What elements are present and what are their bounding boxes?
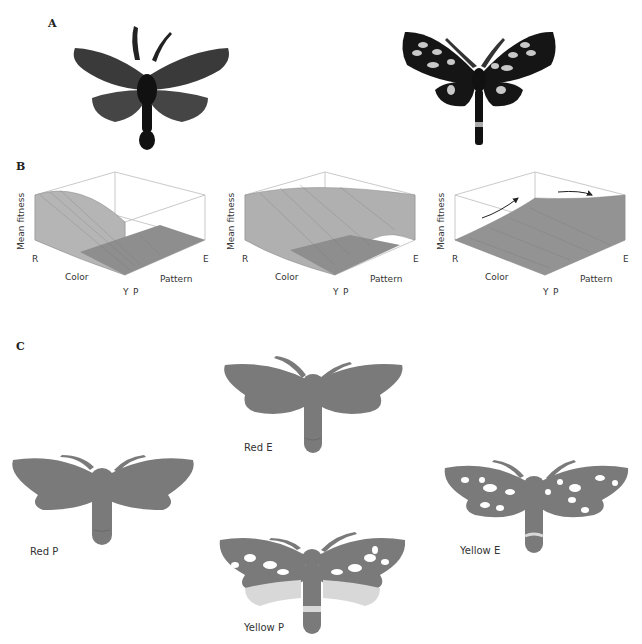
svg-text:R: R (452, 254, 458, 264)
fitness-surface-plot-1: Mean fitness R Color Y P Pattern E (10, 160, 220, 300)
svg-text:Color: Color (275, 272, 299, 282)
svg-text:Y: Y (542, 287, 549, 297)
svg-text:Mean fitness: Mean fitness (436, 192, 446, 250)
svg-text:Color: Color (485, 272, 509, 282)
svg-text:Pattern: Pattern (160, 274, 192, 284)
svg-text:R: R (242, 254, 248, 264)
svg-text:P: P (553, 287, 559, 297)
moth-red-p (8, 445, 198, 550)
svg-text:E: E (203, 254, 209, 264)
fitness-surface-plot-2: Mean fitness R Color Y P Pattern E (220, 160, 430, 300)
svg-text:P: P (133, 287, 139, 297)
svg-text:E: E (413, 254, 419, 264)
svg-text:E: E (623, 254, 629, 264)
svg-text:Pattern: Pattern (580, 274, 612, 284)
trajectory-arrow-2 (558, 191, 592, 195)
caption-red-e: Red E (244, 442, 273, 453)
moth-red-e (220, 350, 405, 455)
moth-yellow-e (440, 450, 635, 555)
svg-text:P: P (343, 287, 349, 297)
svg-text:Y: Y (122, 287, 129, 297)
zlabel: Mean fitness (16, 192, 26, 250)
panel-label-a: A (48, 17, 57, 30)
caption-yellow-e: Yellow E (460, 545, 500, 556)
caption-yellow-p: Yellow P (244, 622, 284, 633)
fitness-surface-plot-3: Mean fitness R Color Y P Pattern E (430, 160, 642, 300)
svg-text:Pattern: Pattern (370, 274, 402, 284)
svg-text:R: R (32, 254, 38, 264)
svg-text:Mean fitness: Mean fitness (226, 192, 236, 250)
spotted-moth-photo (395, 10, 565, 155)
svg-text:Color: Color (65, 272, 89, 282)
caption-red-p: Red P (30, 546, 58, 557)
all-black-moth-photo (70, 10, 240, 150)
panel-label-c: C (16, 340, 25, 353)
svg-text:Y: Y (332, 287, 339, 297)
